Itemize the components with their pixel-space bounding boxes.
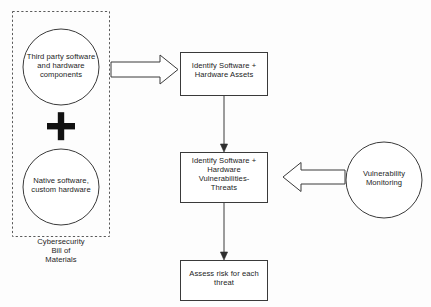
diagram-vector-layer: [0, 0, 431, 307]
plus-sign-icon: [47, 112, 75, 140]
node-native-software-circle: [23, 149, 99, 225]
edge-vulns-to-risk-arrowhead: [220, 252, 227, 260]
diagram-canvas: Third party software and hardware compon…: [0, 0, 431, 307]
node-assess-risk-box: [181, 261, 268, 301]
edge-assets-to-vulns-arrowhead: [220, 144, 227, 152]
node-identify-vulnerabilities-box: [181, 153, 268, 203]
node-identify-assets-box: [181, 53, 268, 96]
edge-cbom-to-assets-block-arrow: [111, 55, 178, 84]
node-third-party-circle: [23, 29, 99, 105]
edge-monitoring-to-vulns-block-arrow: [283, 163, 345, 192]
node-vulnerability-monitoring-circle: [346, 142, 422, 218]
